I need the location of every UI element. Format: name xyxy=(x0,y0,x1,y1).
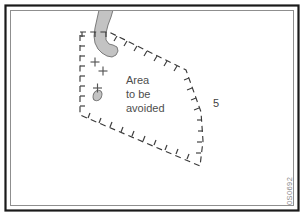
depth-label-5: 5 xyxy=(213,97,219,109)
area-avoided-label-line1: Area xyxy=(126,74,150,86)
area-avoided-label-line3: avoided xyxy=(126,102,165,114)
nautical-chart-figure: Area to be avoided 5 0S0692 xyxy=(0,0,304,216)
chart-canvas: Area to be avoided 5 0S0692 xyxy=(0,0,304,216)
figure-reference-code: 0S0692 xyxy=(285,177,294,205)
area-avoided-label-line2: to be xyxy=(126,88,150,100)
